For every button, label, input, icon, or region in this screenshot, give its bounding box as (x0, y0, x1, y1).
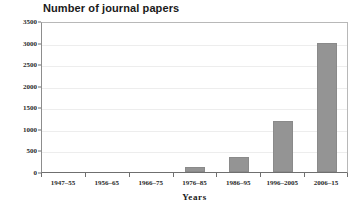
x-axis-tick-mark (347, 173, 348, 177)
chart-figure: Number of journal papers 050010001500200… (0, 0, 364, 212)
y-axis: 0500100015002000250030003500 (0, 22, 41, 173)
bar[interactable] (273, 121, 293, 172)
y-axis-tick-label: 3500 (23, 18, 37, 26)
x-axis-tick-label: 1986–95 (226, 179, 251, 187)
bar-slot (130, 23, 174, 172)
x-axis-tick-mark (216, 173, 217, 177)
bar-slot (42, 23, 86, 172)
x-axis-tick-mark (85, 173, 86, 177)
x-axis-tick-label: 1996–2005 (266, 179, 298, 187)
bar-slot (174, 23, 218, 172)
y-axis-tick-label: 3000 (23, 40, 37, 48)
x-axis-tick-mark (173, 173, 174, 177)
y-axis-tick-label: 2500 (23, 61, 37, 69)
x-axis-tick-label: 1976–85 (182, 179, 207, 187)
bar-slot (305, 23, 349, 172)
y-axis-tick-label: 500 (27, 147, 38, 155)
bar-slot (86, 23, 130, 172)
bar[interactable] (229, 157, 249, 172)
x-axis-tick-mark (304, 173, 305, 177)
bar-slot (217, 23, 261, 172)
bar[interactable] (317, 43, 337, 172)
y-axis-tick-label: 2000 (23, 83, 37, 91)
chart-title: Number of journal papers (43, 2, 179, 14)
bar[interactable] (185, 167, 205, 172)
x-axis-tick-mark (41, 173, 42, 177)
y-axis-tick-label: 1000 (23, 126, 37, 134)
y-axis-tick-label: 1500 (23, 104, 37, 112)
y-axis-tick-label: 0 (34, 169, 38, 177)
plot-area (41, 22, 348, 173)
x-axis-tick-mark (260, 173, 261, 177)
x-axis-tick-label: 2006–15 (314, 179, 339, 187)
x-axis-tick-label: 1966–75 (138, 179, 163, 187)
x-axis-tick-label: 1947–55 (51, 179, 76, 187)
x-axis: 1947–551956–651966–751976–851986–951996–… (41, 173, 348, 193)
bar-slot (261, 23, 305, 172)
x-axis-title: Years (41, 192, 348, 202)
bars-layer (42, 23, 347, 172)
x-axis-tick-mark (129, 173, 130, 177)
x-axis-tick-label: 1956–65 (95, 179, 120, 187)
